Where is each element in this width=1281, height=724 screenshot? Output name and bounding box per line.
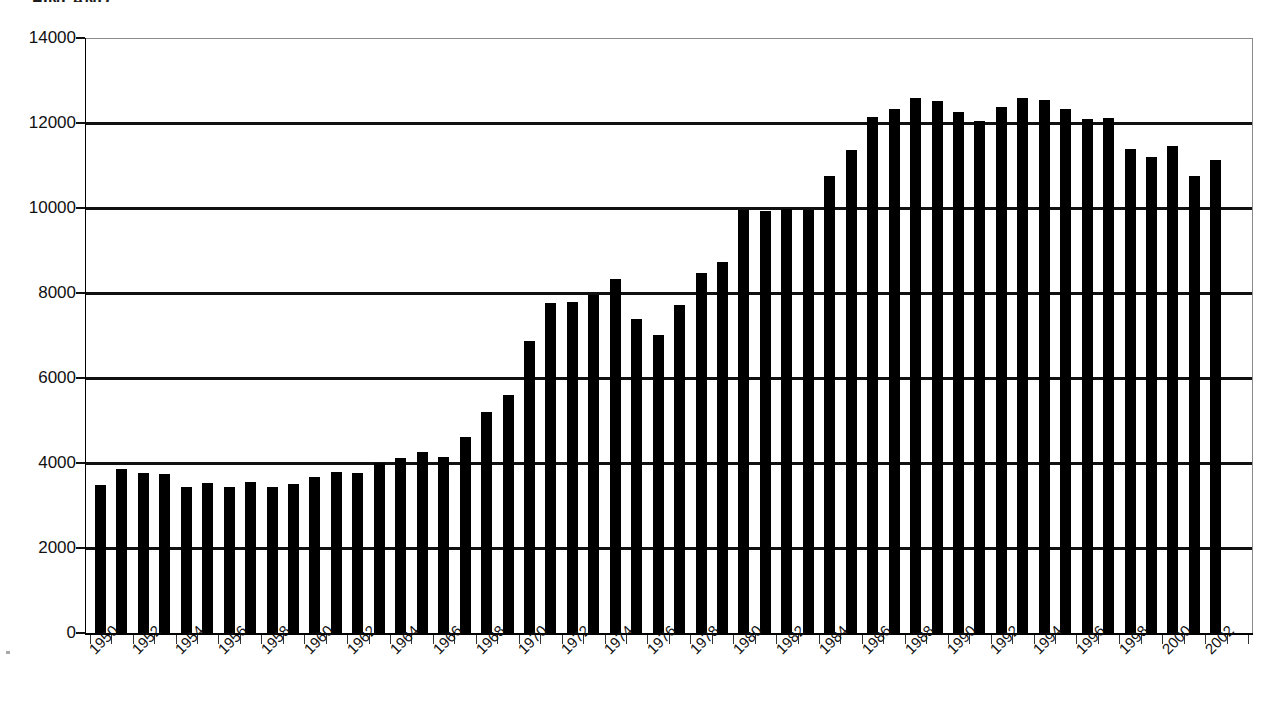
bar [738, 210, 749, 633]
bar [1017, 98, 1028, 633]
x-tick-label: 1978 [687, 622, 721, 656]
bar [653, 335, 664, 633]
y-tick-mark [76, 632, 85, 634]
x-tick-label: 1974 [601, 622, 635, 656]
scan-artifact [6, 651, 10, 654]
bar [288, 484, 299, 633]
gridline-4000 [85, 462, 1253, 465]
x-tick-mark [1248, 635, 1249, 644]
gridline-6000 [85, 377, 1253, 380]
y-tick-mark [76, 377, 85, 379]
x-tick-label: 1956 [215, 622, 249, 656]
bar [610, 279, 621, 633]
bar [116, 469, 127, 633]
x-tick-label: 1980 [730, 622, 764, 656]
bar [331, 472, 342, 634]
x-tick-label: 1970 [515, 622, 549, 656]
bar [910, 98, 921, 633]
x-tick-label: 1968 [473, 622, 507, 656]
bar [588, 295, 599, 633]
bar [953, 112, 964, 633]
bar [717, 262, 728, 633]
bar [1167, 146, 1178, 633]
x-tick-label: 1962 [344, 622, 378, 656]
x-tick-label: 2002 [1202, 622, 1236, 656]
x-tick-label: 1952 [129, 622, 163, 656]
bar [267, 487, 278, 633]
bar [374, 463, 385, 633]
bar [1125, 149, 1136, 633]
x-tick-label: 1958 [258, 622, 292, 656]
x-tick-label: 1998 [1116, 622, 1150, 656]
bar [245, 482, 256, 633]
bar [159, 474, 170, 633]
x-tick-label: 1966 [430, 622, 464, 656]
x-tick-label: 1964 [387, 622, 421, 656]
y-tick-mark [76, 462, 85, 464]
bar [567, 302, 578, 634]
x-tick-label: 2000 [1159, 622, 1193, 656]
y-tick-mark [76, 37, 85, 39]
bar [181, 487, 192, 633]
y-tick-label: 4000 [10, 454, 76, 471]
bar [524, 341, 535, 633]
x-tick-label: 1972 [558, 622, 592, 656]
y-axis-line [85, 38, 86, 633]
x-tick-label: 1982 [773, 622, 807, 656]
x-tick-label: 1984 [816, 622, 850, 656]
y-tick-mark [76, 292, 85, 294]
y-tick-label: 2000 [10, 539, 76, 556]
bar [438, 457, 449, 633]
gridline-2000 [85, 547, 1253, 550]
bar [932, 101, 943, 633]
bar [460, 437, 471, 633]
x-tick-label: 1986 [859, 622, 893, 656]
gridline-8000 [85, 292, 1253, 295]
y-tick-label: 14000 [10, 29, 76, 46]
bar [760, 211, 771, 633]
y-tick-mark [76, 122, 85, 124]
y-tick-label: 0 [10, 624, 76, 641]
y-axis-labels: 02000400060008000100001200014000 [0, 0, 76, 724]
bar [674, 305, 685, 633]
plot-frame-right [1252, 38, 1253, 633]
x-tick-label: 1988 [902, 622, 936, 656]
bar [309, 477, 320, 633]
bar [1103, 118, 1114, 633]
bar [889, 109, 900, 633]
bar [395, 458, 406, 633]
bar [352, 473, 363, 633]
bar [696, 273, 707, 633]
y-tick-mark [76, 207, 85, 209]
bar [803, 210, 814, 633]
gridline-12000 [85, 122, 1253, 125]
y-tick-label: 12000 [10, 114, 76, 131]
bar [824, 176, 835, 633]
x-tick-label: 1994 [1030, 622, 1064, 656]
bar-chart-figure: FINLAND 02000400060008000100001200014000… [0, 0, 1281, 724]
bar [503, 395, 514, 633]
x-tick-label: 1960 [301, 622, 335, 656]
x-tick-label: 1954 [172, 622, 206, 656]
bar [1210, 160, 1221, 633]
bar [781, 209, 792, 633]
x-tick-label: 1992 [987, 622, 1021, 656]
plot-frame-top [85, 38, 1253, 39]
bar [846, 150, 857, 633]
bar [417, 452, 428, 633]
bar [867, 117, 878, 633]
x-tick-label: 1950 [86, 622, 120, 656]
y-tick-label: 6000 [10, 369, 76, 386]
bar [202, 483, 213, 633]
y-tick-mark [76, 547, 85, 549]
x-tick-label: 1990 [944, 622, 978, 656]
bar [996, 107, 1007, 633]
gridline-10000 [85, 207, 1253, 210]
bar [224, 487, 235, 633]
bar [545, 303, 556, 633]
bar [138, 473, 149, 633]
bar [95, 485, 106, 633]
bar [1039, 100, 1050, 633]
bar [1146, 157, 1157, 633]
bar [974, 121, 985, 633]
